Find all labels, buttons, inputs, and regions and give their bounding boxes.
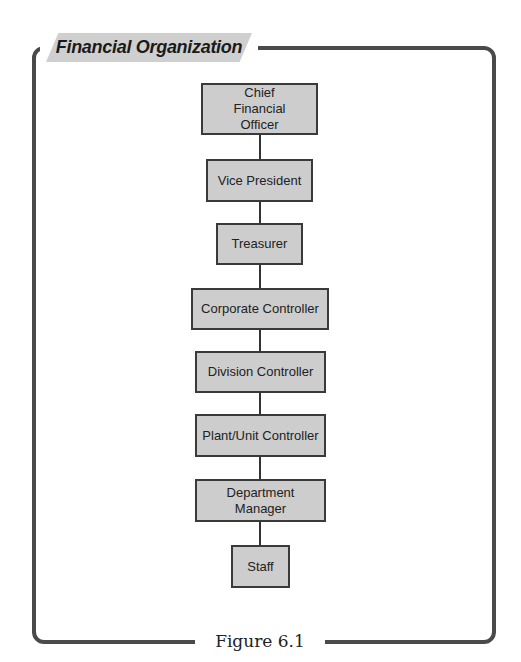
node-division-controller: Division Controller: [195, 351, 326, 393]
connector-plant-department: [259, 457, 261, 479]
connector-cfo-vp: [259, 135, 261, 159]
node-department-manager: Department Manager: [195, 479, 326, 522]
connector-division-plant: [259, 393, 261, 414]
node-chief-financial-officer: Chief Financial Officer: [201, 83, 318, 135]
node-staff: Staff: [231, 545, 290, 588]
connector-vp-treasurer: [259, 202, 261, 223]
figure-title: Financial Organization: [56, 37, 242, 58]
connector-corporate-division: [259, 330, 261, 351]
figure-caption: Figure 6.1: [215, 631, 305, 651]
connector-treasurer-corporate: [259, 265, 261, 288]
figure-caption-container: Figure 6.1: [195, 630, 325, 652]
node-corporate-controller: Corporate Controller: [191, 288, 329, 330]
node-treasurer: Treasurer: [216, 223, 303, 265]
connector-department-staff: [259, 522, 261, 545]
node-plant-unit-controller: Plant/Unit Controller: [195, 414, 326, 457]
title-tab: Financial Organization: [46, 33, 252, 62]
node-vice-president: Vice President: [206, 159, 313, 202]
